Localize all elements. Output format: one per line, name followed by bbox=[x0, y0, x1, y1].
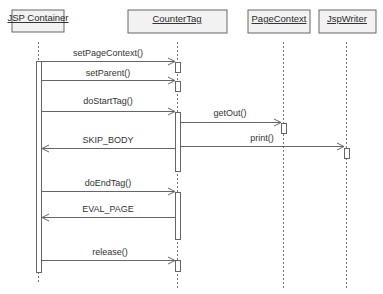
lifelines bbox=[39, 42, 347, 290]
activation-out-print bbox=[345, 149, 350, 159]
activation-ctx-getout bbox=[282, 124, 287, 134]
message-getout bbox=[181, 119, 282, 126]
messages bbox=[42, 58, 345, 264]
participant-label: JspWriter bbox=[327, 13, 367, 24]
message-label: setParent() bbox=[86, 68, 131, 78]
message-setparent bbox=[42, 77, 176, 84]
participant-pagecontext: PageContext bbox=[248, 10, 310, 33]
message-label: SKIP_BODY bbox=[82, 135, 133, 145]
participant-label: PageContext bbox=[252, 13, 307, 24]
message-label: print() bbox=[250, 133, 274, 143]
participant-countertag: CounterTag bbox=[128, 10, 227, 33]
message-label: getOut() bbox=[213, 108, 246, 118]
message-skip-body-return bbox=[42, 145, 176, 152]
message-label: release() bbox=[92, 247, 128, 257]
message-release bbox=[42, 257, 176, 264]
message-print bbox=[181, 143, 345, 150]
message-label: setPageContext() bbox=[73, 48, 143, 58]
activation-tag-setparent bbox=[176, 82, 181, 92]
participant-label: CounterTag bbox=[152, 13, 201, 24]
message-setpagecontext bbox=[42, 58, 176, 65]
message-eval-page-return bbox=[42, 214, 176, 221]
activation-tag-release bbox=[176, 261, 181, 272]
participant-label: JSP Container bbox=[7, 12, 68, 23]
message-doendtag bbox=[42, 188, 176, 195]
activation-tag-setpagecontext bbox=[176, 63, 181, 73]
participant-jspwriter: JspWriter bbox=[319, 10, 376, 33]
message-dostarttag bbox=[42, 108, 176, 115]
message-label: EVAL_PAGE bbox=[82, 204, 134, 214]
activation-tag-dostarttag bbox=[176, 113, 181, 172]
participant-jsp-container: JSP Container bbox=[7, 10, 68, 32]
message-label: doStartTag() bbox=[83, 96, 133, 106]
activation-tag-doendtag bbox=[176, 193, 181, 240]
message-label: doEndTag() bbox=[85, 178, 132, 188]
sequence-diagram: JSP Container CounterTag PageContext Jsp… bbox=[0, 0, 383, 294]
activation-bars bbox=[37, 62, 350, 273]
activation-jsp bbox=[37, 62, 42, 273]
